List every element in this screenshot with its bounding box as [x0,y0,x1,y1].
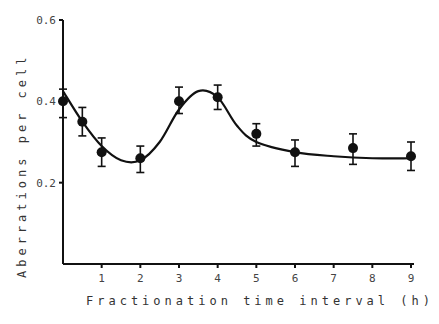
data-point [135,146,145,172]
y-tick-label: 0.6 [36,14,56,27]
point-marker [135,153,145,163]
y-tick-label: 0.4 [36,95,56,108]
data-point [348,134,358,165]
fitted-curve [63,90,411,162]
x-tick-label: 4 [214,272,221,285]
chart: 0.20.40.6123456789 Aberrations per cell … [0,0,439,324]
x-tick-label: 8 [369,272,376,285]
data-point [213,85,223,109]
point-marker [251,129,261,139]
point-marker [97,147,107,157]
curve-path [63,90,411,162]
data-point [77,107,87,135]
data-point [58,89,68,117]
x-axis-label: Fractionation time interval (h) [86,294,434,308]
data-points [58,85,416,172]
x-tick-label: 9 [408,272,415,285]
data-point [290,140,300,166]
y-axis-label: Aberrations per cell [15,54,29,279]
data-point [174,87,184,113]
point-marker [348,143,358,153]
x-tick-label: 6 [292,272,299,285]
x-tick-label: 3 [176,272,183,285]
point-marker [77,117,87,127]
x-tick-label: 1 [98,272,105,285]
point-marker [406,151,416,161]
x-tick-label: 7 [330,272,337,285]
x-tick-label: 5 [253,272,260,285]
x-tick-label: 2 [137,272,144,285]
point-marker [213,92,223,102]
point-marker [290,147,300,157]
y-tick-label: 0.2 [36,177,56,190]
axes [59,20,414,268]
data-point [406,142,416,170]
point-marker [58,96,68,106]
point-marker [174,96,184,106]
